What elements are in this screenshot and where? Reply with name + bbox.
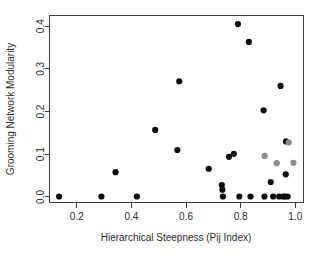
y-tick-label: 0.3 <box>35 61 46 75</box>
x-axis-title: Hierarchical Steepness (Pij Index) <box>101 232 252 243</box>
data-point <box>268 179 274 185</box>
x-tick-label: 0.6 <box>179 211 193 222</box>
y-tick-label: 0.0 <box>35 190 46 204</box>
data-point <box>236 193 242 199</box>
data-points-layer <box>56 21 297 200</box>
data-point <box>246 39 252 45</box>
data-point <box>261 193 267 199</box>
data-point <box>174 147 180 153</box>
plot-canvas: 0.20.40.60.81.0 0.00.10.20.30.4 Hierarch… <box>0 0 317 260</box>
y-axis-ticks: 0.00.10.20.30.4 <box>35 19 50 204</box>
data-point <box>98 193 104 199</box>
data-point <box>262 153 268 159</box>
data-point <box>235 21 241 27</box>
y-tick-label: 0.4 <box>35 19 46 33</box>
y-axis-title: Grooming Network Modularity <box>5 43 16 175</box>
data-point <box>290 160 296 166</box>
data-point <box>247 193 253 199</box>
x-tick-label: 1.0 <box>288 211 302 222</box>
data-point <box>277 83 283 89</box>
data-point <box>285 193 291 199</box>
x-tick-label: 0.8 <box>234 211 248 222</box>
data-point <box>134 193 140 199</box>
data-point <box>152 127 158 133</box>
data-point <box>286 139 292 145</box>
data-point <box>206 166 212 172</box>
data-point <box>220 193 226 199</box>
scatter-plot-figure: 0.20.40.60.81.0 0.00.10.20.30.4 Hierarch… <box>0 0 317 260</box>
data-point <box>270 193 276 199</box>
y-tick-label: 0.1 <box>35 147 46 161</box>
data-point <box>219 187 225 193</box>
x-tick-label: 0.4 <box>124 211 138 222</box>
x-tick-label: 0.2 <box>70 211 84 222</box>
data-point <box>56 193 62 199</box>
data-point <box>231 151 237 157</box>
data-point <box>112 169 118 175</box>
data-point <box>274 160 280 166</box>
data-point <box>283 171 289 177</box>
data-point <box>176 78 182 84</box>
data-point <box>261 107 267 113</box>
y-tick-label: 0.2 <box>35 104 46 118</box>
x-axis-ticks: 0.20.40.60.81.0 <box>70 203 303 222</box>
